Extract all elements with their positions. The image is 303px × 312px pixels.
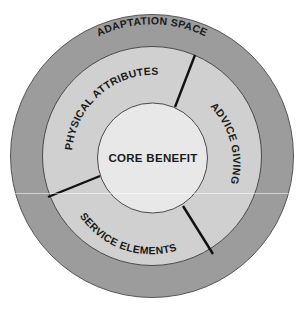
product-levels-diagram: ADAPTATION SPACE PHYSICAL ATTRIBUTES ADV… [0,0,303,312]
label-core-benefit: CORE BENEFIT [108,152,197,164]
